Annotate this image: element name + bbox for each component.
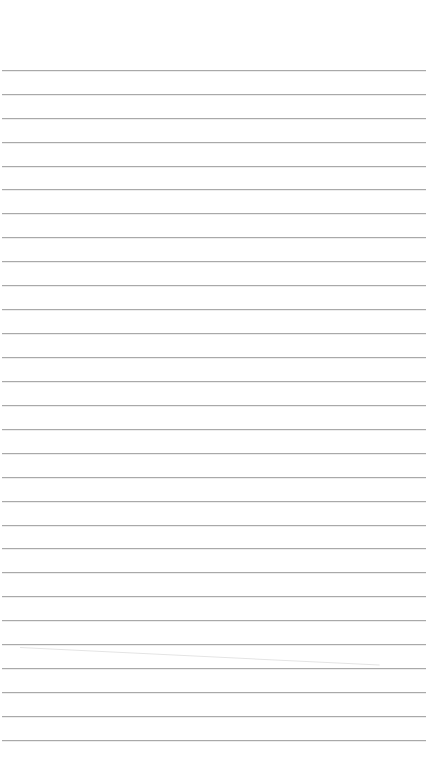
ruled-line [2,644,426,645]
ruled-line [2,213,426,214]
ruled-line [2,70,426,71]
ruled-line [2,357,426,358]
ruled-line [2,740,426,741]
ruled-line [2,261,426,262]
ruled-line [2,548,426,549]
ruled-line [2,189,426,190]
ruled-line [2,309,426,310]
ruled-line [2,692,426,693]
ruled-line [2,333,426,334]
faint-diagonal-mark [20,647,380,666]
ruled-line [2,405,426,406]
ruled-line [2,118,426,119]
ruled-line [2,453,426,454]
ruled-line [2,620,426,621]
ruled-line [2,668,426,669]
ruled-line [2,572,426,573]
ruled-line [2,716,426,717]
ruled-line [2,596,426,597]
ruled-line [2,429,426,430]
ruled-line [2,166,426,167]
ruled-line [2,94,426,95]
ruled-line [2,477,426,478]
ruled-line [2,501,426,502]
ruled-line [2,525,426,526]
ruled-line [2,285,426,286]
ruled-line [2,237,426,238]
lined-paper-page [0,0,428,767]
ruled-line [2,381,426,382]
ruled-line [2,142,426,143]
